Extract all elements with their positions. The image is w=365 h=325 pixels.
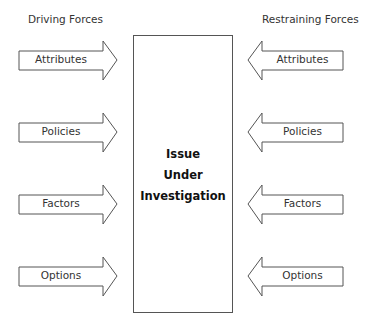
issue-title-line: Under xyxy=(133,165,233,186)
driving-force-label: Factors xyxy=(19,197,103,209)
restraining-force-label: Options xyxy=(262,269,343,281)
driving-force-label: Options xyxy=(19,269,103,281)
driving-force-label: Attributes xyxy=(19,53,103,65)
restraining-force-label: Policies xyxy=(262,125,343,137)
driving-force-label: Policies xyxy=(19,125,103,137)
restraining-force-label: Attributes xyxy=(262,53,343,65)
restraining-force-label: Factors xyxy=(262,197,343,209)
issue-title-line: Investigation xyxy=(133,186,233,207)
issue-title-line: Issue xyxy=(133,144,233,165)
issue-title: Issue Under Investigation xyxy=(133,144,233,207)
